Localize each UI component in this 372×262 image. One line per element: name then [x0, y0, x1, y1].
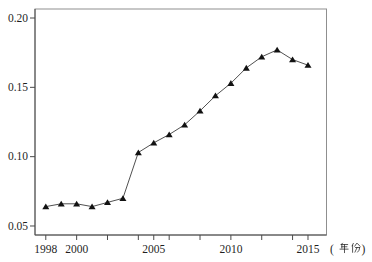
data-line: [46, 50, 308, 207]
y-tick-label: 0.20: [8, 12, 28, 24]
x-tick-label: 1998: [34, 243, 57, 255]
y-tick-label: 0.10: [8, 150, 28, 162]
data-point-marker-2006: [166, 131, 173, 137]
x-tick-label: 2005: [142, 243, 165, 255]
data-point-marker-2012: [258, 54, 265, 60]
x-axis-unit-label: (): [330, 243, 366, 256]
line-chart: 0.050.100.150.2019982000200520102015(): [0, 0, 372, 262]
cjk-glyph: [340, 243, 348, 253]
data-point-marker-2005: [150, 140, 157, 146]
data-point-marker-2015: [304, 62, 311, 68]
paren-char: ): [362, 243, 366, 256]
x-tick-label: 2015: [296, 243, 319, 255]
data-point-marker-2004: [135, 149, 142, 155]
data-point-marker-2002: [104, 199, 111, 205]
x-tick-label: 2010: [219, 243, 242, 255]
data-point-marker-2014: [289, 57, 296, 63]
paren-char: (: [330, 243, 334, 256]
data-point-marker-2003: [119, 195, 126, 201]
cjk-glyph: [352, 243, 360, 252]
plot-border: [35, 9, 327, 235]
data-point-marker-2013: [274, 47, 281, 53]
y-tick-label: 0.05: [8, 220, 28, 232]
x-tick-label: 2000: [65, 243, 88, 255]
y-tick-label: 0.15: [8, 81, 28, 93]
chart-figure: 0.050.100.150.2019982000200520102015(): [0, 0, 372, 262]
